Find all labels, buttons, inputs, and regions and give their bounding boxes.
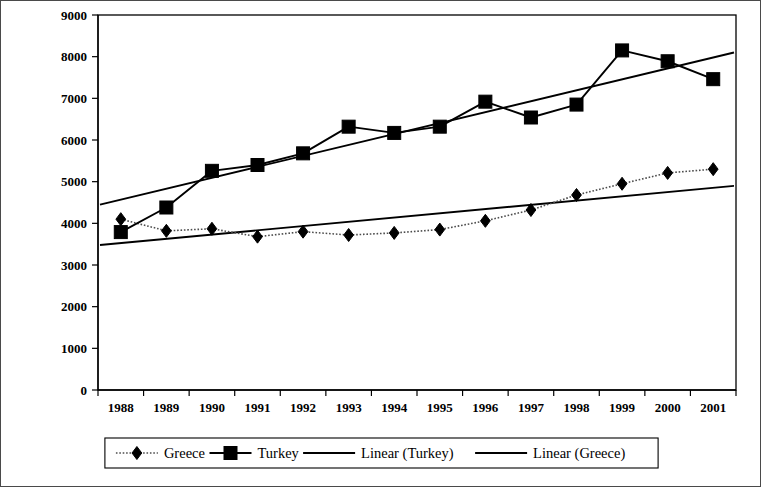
legend-label: Greece: [164, 445, 205, 461]
y-tick-label: 6000: [61, 133, 87, 148]
data-point-marker: [251, 159, 264, 172]
x-tick-label: 2000: [655, 400, 681, 415]
x-tick-label: 1993: [336, 400, 363, 415]
data-point-marker: [617, 177, 627, 190]
data-point-marker: [114, 226, 127, 239]
x-tick-label: 1995: [427, 400, 454, 415]
x-tick-label: 1994: [381, 400, 408, 415]
data-point-marker: [524, 111, 537, 124]
y-tick-label: 4000: [61, 216, 87, 231]
legend-label: Linear (Turkey): [361, 445, 454, 462]
x-tick-label: 1991: [245, 400, 271, 415]
x-tick-label: 1998: [564, 400, 591, 415]
data-point-marker: [116, 213, 126, 226]
legend-label: Linear (Greece): [533, 445, 625, 462]
x-axis-tick-labels: 1988198919901991199219931994199519961997…: [108, 400, 726, 415]
plot-area-border: [98, 15, 736, 390]
y-axis-tick-labels: 0100020003000400050006000700080009000: [61, 8, 87, 398]
y-tick-label: 7000: [61, 91, 87, 106]
x-axis: [98, 390, 736, 396]
x-tick-label: 2001: [700, 400, 726, 415]
data-point-marker: [388, 126, 401, 139]
data-point-marker: [297, 147, 310, 160]
y-tick-label: 8000: [61, 49, 87, 64]
data-point-marker: [707, 73, 720, 86]
line-chart: 0100020003000400050006000700080009000 19…: [1, 1, 761, 487]
plot-frame: [98, 15, 736, 390]
x-tick-label: 1996: [472, 400, 499, 415]
trendline-linear-turkey: [100, 53, 734, 205]
y-tick-label: 2000: [61, 299, 87, 314]
chart-legend: GreeceTurkeyLinear (Turkey)Linear (Greec…: [105, 438, 658, 468]
x-tick-label: 1997: [518, 400, 545, 415]
data-point-marker: [389, 226, 399, 239]
data-point-marker: [253, 230, 263, 243]
trendline-group: [100, 53, 734, 246]
chart-figure: 0100020003000400050006000700080009000 19…: [0, 0, 761, 487]
data-point-marker: [708, 163, 718, 176]
data-point-marker: [435, 223, 445, 236]
trendline-linear-greece: [100, 186, 734, 245]
data-point-marker: [161, 224, 171, 237]
x-tick-label: 1988: [108, 400, 135, 415]
y-axis: [92, 15, 98, 390]
data-point-marker: [205, 164, 218, 177]
data-point-marker: [570, 98, 583, 111]
y-tick-label: 9000: [61, 8, 87, 23]
data-point-marker: [663, 166, 673, 179]
x-tick-label: 1989: [153, 400, 180, 415]
legend-label: Turkey: [258, 445, 300, 461]
data-point-marker: [616, 44, 629, 57]
x-tick-label: 1999: [609, 400, 636, 415]
y-tick-label: 0: [81, 383, 88, 398]
data-point-marker: [480, 214, 490, 227]
data-point-marker: [344, 229, 354, 242]
data-point-marker: [160, 201, 173, 214]
x-tick-label: 1992: [290, 400, 316, 415]
data-point-marker: [479, 95, 492, 108]
y-tick-label: 5000: [61, 174, 87, 189]
series-line-turkey: [121, 50, 713, 232]
data-point-marker: [224, 447, 237, 460]
data-point-marker: [661, 55, 674, 68]
series-group: [114, 44, 719, 243]
y-tick-label: 1000: [61, 341, 87, 356]
series-markers-turkey: [114, 44, 719, 239]
data-point-marker: [433, 120, 446, 133]
x-tick-label: 1990: [199, 400, 225, 415]
data-point-marker: [342, 120, 355, 133]
y-tick-label: 3000: [61, 258, 87, 273]
